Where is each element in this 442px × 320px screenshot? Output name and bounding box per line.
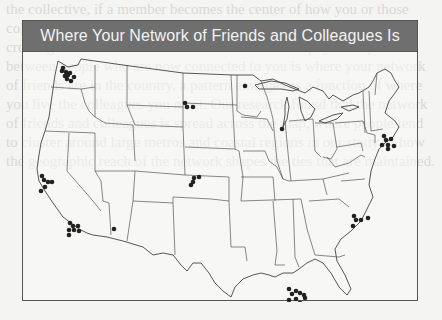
location-dot <box>68 71 73 76</box>
location-dot <box>67 228 72 233</box>
location-dot <box>77 229 82 234</box>
location-dot <box>290 292 295 297</box>
location-dot <box>40 174 45 179</box>
location-dot <box>71 224 76 229</box>
figure-title: Where Your Network of Friends and Collea… <box>23 21 417 52</box>
location-dot <box>76 224 81 229</box>
location-dot <box>392 144 397 149</box>
location-dot <box>189 183 194 188</box>
cluster-kansas <box>189 175 202 188</box>
cluster-south-dakota <box>183 101 196 110</box>
location-dot <box>287 287 292 292</box>
location-dot <box>243 84 248 89</box>
cluster-minnesota <box>243 84 248 89</box>
location-dot <box>46 180 51 185</box>
location-dot <box>65 77 70 82</box>
location-dot <box>72 228 77 233</box>
us-map <box>23 51 419 302</box>
location-dot <box>386 147 391 152</box>
location-dot <box>183 101 188 106</box>
location-dot <box>382 134 387 139</box>
map-figure: Where Your Network of Friends and Collea… <box>22 20 418 301</box>
location-dot <box>352 214 357 219</box>
location-dot <box>294 297 299 302</box>
location-dot <box>351 224 356 229</box>
location-dot <box>67 233 72 238</box>
location-dot <box>60 69 65 74</box>
location-dot <box>43 185 48 190</box>
great-lakes <box>255 81 359 127</box>
location-dot <box>280 127 285 132</box>
location-dot <box>298 301 303 302</box>
location-dot <box>287 298 292 302</box>
location-dot <box>42 178 47 183</box>
cluster-seattle <box>60 66 77 84</box>
cluster-north-carolina <box>351 214 371 229</box>
location-dot <box>39 189 44 194</box>
location-dot <box>380 143 385 148</box>
location-dot <box>354 218 359 223</box>
location-dot <box>294 289 299 294</box>
cluster-louisiana <box>287 287 308 302</box>
cluster-sf-bay <box>39 174 55 194</box>
location-dot <box>303 296 308 301</box>
us-outline <box>37 59 399 297</box>
location-dot <box>185 105 190 110</box>
location-dot <box>197 175 202 180</box>
location-dot <box>366 216 371 221</box>
location-dot <box>112 227 117 232</box>
cluster-los-angeles <box>67 221 82 238</box>
location-dot <box>50 180 55 185</box>
location-dot <box>69 79 74 84</box>
location-dot <box>72 75 77 80</box>
location-dot <box>298 291 303 296</box>
location-dot <box>389 137 394 142</box>
location-dot <box>384 138 389 143</box>
cluster-phoenix <box>112 227 117 232</box>
location-dot <box>386 143 391 148</box>
location-dot <box>191 105 196 110</box>
location-dot <box>192 176 197 181</box>
cluster-chicago <box>280 127 285 132</box>
location-dot <box>359 218 364 223</box>
